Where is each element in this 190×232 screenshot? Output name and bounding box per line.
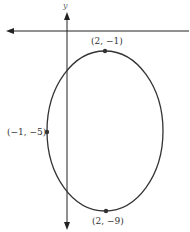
point-bottom-vertex: (2, −9) [92,209,124,226]
ellipse-diagram: y (2, −1) (−1, −5) (2, −9) [0,0,190,232]
y-axis-arrow-up-icon [64,12,70,20]
y-axis-label: y [62,1,68,10]
y-axis: y [62,1,70,230]
x-axis-arrow-left-icon [6,28,14,34]
ellipse-curve [47,51,163,211]
y-axis-arrow-down-icon [64,222,70,230]
point-label-bottom: (2, −9) [92,216,124,226]
point-top-vertex: (2, −1) [91,36,123,53]
x-axis [6,28,189,34]
point-marker-icon [103,49,107,53]
point-marker-icon [104,209,108,213]
point-label-top: (2, −1) [91,36,123,46]
point-left-covertex: (−1, −5) [7,127,49,137]
point-label-left: (−1, −5) [7,127,46,137]
